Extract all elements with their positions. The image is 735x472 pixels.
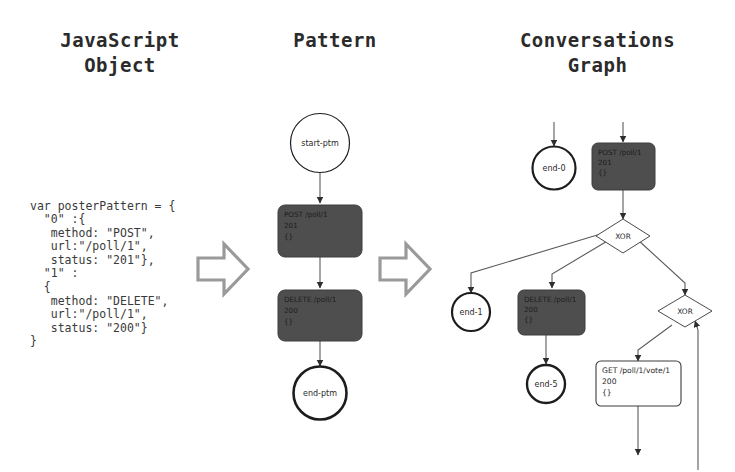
conv-end1-label: end-1: [459, 308, 482, 317]
conv-delete-node: DELETE /poll/1 200 {}: [518, 290, 585, 335]
conv-get-body: {}: [602, 388, 612, 397]
conv-post-status: 201: [598, 158, 612, 167]
edge-xor1-to-xor2: [638, 240, 685, 295]
conv-xor1-node: XOR: [596, 219, 650, 253]
edge-xor1-to-delete: [552, 240, 609, 288]
conv-get-method: GET /poll/1/vote/1: [602, 366, 670, 375]
edge-feedback-to-xor2: [695, 321, 698, 470]
conv-end1-node: end-1: [452, 293, 490, 331]
conv-get-status: 200: [602, 377, 617, 386]
conv-delete-method: DELETE /poll/1: [524, 295, 576, 304]
conv-xor2-node: XOR: [658, 295, 712, 327]
conv-end0-node: end-0: [533, 147, 576, 190]
conv-end5-node: end-5: [527, 365, 565, 403]
edge-xor2-to-get: [638, 325, 672, 361]
conv-end0-label: end-0: [542, 164, 565, 173]
diagram-page: JavaScript Object Pattern Conversations …: [0, 0, 735, 472]
conv-xor1-label: XOR: [615, 232, 631, 241]
conv-xor2-label: XOR: [677, 307, 693, 316]
conv-delete-status: 200: [524, 305, 538, 314]
conv-post-body: {}: [598, 168, 607, 177]
edge-xor1-to-end1: [471, 233, 604, 293]
conv-get-node: GET /poll/1/vote/1 200 {}: [596, 361, 681, 406]
conv-delete-body: {}: [524, 315, 533, 324]
conv-post-method: POST /poll/1: [598, 148, 642, 157]
conv-post-node: POST /poll/1 201 {}: [592, 143, 655, 190]
conversations-graph-diagram: end-0 POST /poll/1 201 {} XOR end-1 DELE…: [0, 0, 735, 472]
conv-end5-label: end-5: [534, 380, 557, 389]
